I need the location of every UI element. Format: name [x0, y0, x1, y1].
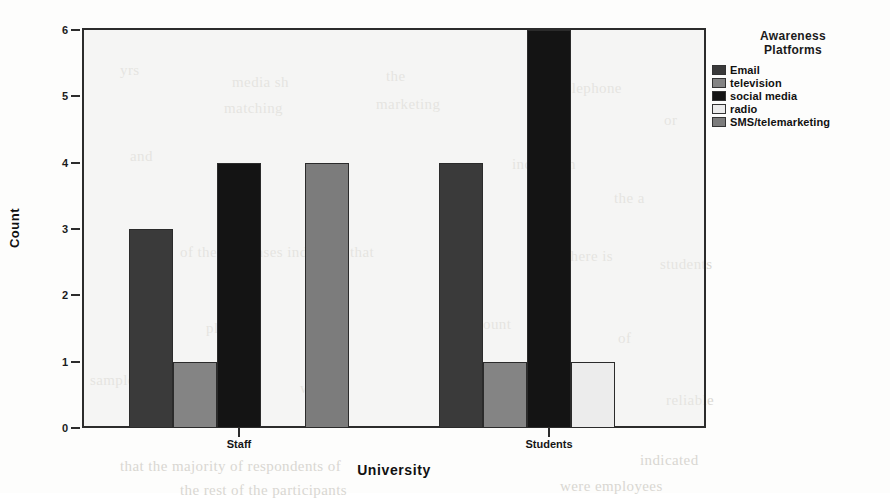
- bar: [571, 362, 615, 428]
- y-tick-mark: [71, 294, 80, 296]
- y-tick-label: 2: [62, 289, 68, 301]
- legend-item[interactable]: SMS/telemarketing: [712, 116, 888, 128]
- y-tick-mark: [71, 228, 80, 230]
- legend-item-label: Email: [730, 64, 760, 76]
- legend: Awareness Platforms Emailtelevisionsocia…: [712, 30, 888, 129]
- bar: [305, 163, 349, 428]
- y-tick-mark: [71, 361, 80, 363]
- y-tick-mark: [71, 162, 80, 164]
- bar: [217, 163, 261, 428]
- legend-item-label: television: [730, 77, 782, 89]
- x-axis-title: University: [357, 462, 431, 478]
- legend-item[interactable]: radio: [712, 103, 888, 115]
- legend-item-label: social media: [730, 90, 797, 102]
- y-tick-mark: [71, 95, 80, 97]
- y-tick-label: 3: [62, 223, 68, 235]
- legend-title-line-1: Awareness: [760, 29, 826, 43]
- bar: [439, 163, 483, 428]
- y-tick-mark: [71, 427, 80, 429]
- legend-items: Emailtelevisionsocial mediaradioSMS/tele…: [712, 64, 888, 128]
- bar-group-staff: [84, 30, 394, 428]
- legend-title-line-2: Platforms: [764, 43, 822, 57]
- bar-group-students: [394, 30, 704, 428]
- legend-item-label: SMS/telemarketing: [730, 116, 830, 128]
- x-tick-mark: [238, 428, 240, 437]
- legend-swatch-icon: [712, 117, 726, 127]
- legend-swatch-icon: [712, 65, 726, 75]
- bar: [173, 362, 217, 428]
- y-axis-title: Count: [7, 208, 22, 248]
- y-tick-label: 6: [62, 24, 68, 36]
- y-tick-mark: [71, 29, 80, 31]
- legend-item[interactable]: television: [712, 77, 888, 89]
- legend-item[interactable]: social media: [712, 90, 888, 102]
- legend-item[interactable]: Email: [712, 64, 888, 76]
- y-tick-label: 4: [62, 157, 68, 169]
- y-tick-label: 5: [62, 90, 68, 102]
- legend-item-label: radio: [730, 103, 757, 115]
- x-tick-label-staff: Staff: [227, 438, 251, 450]
- legend-swatch-icon: [712, 91, 726, 101]
- legend-title: Awareness Platforms: [718, 30, 868, 58]
- bar: [129, 229, 173, 428]
- legend-swatch-icon: [712, 78, 726, 88]
- bar: [527, 30, 571, 428]
- legend-swatch-icon: [712, 104, 726, 114]
- bars-layer: [84, 30, 704, 428]
- x-tick-label-students: Students: [525, 438, 572, 450]
- y-tick-label: 1: [62, 356, 68, 368]
- y-tick-label: 0: [62, 422, 68, 434]
- bar: [483, 362, 527, 428]
- x-tick-mark: [548, 428, 550, 437]
